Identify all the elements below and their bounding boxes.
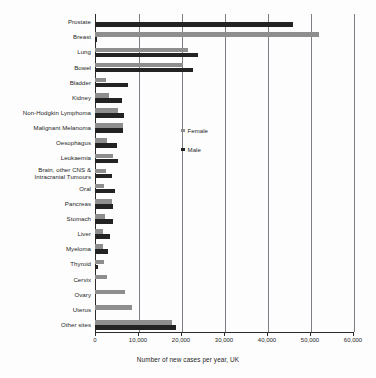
tick-mark-10000 xyxy=(138,332,139,336)
bar-male xyxy=(95,325,176,330)
bar-male xyxy=(95,143,117,148)
bar-male xyxy=(95,174,112,179)
category-label: Oesophagus xyxy=(0,139,91,146)
bar-row: Pancreas xyxy=(0,196,376,212)
cancer-incidence-bar-chart: ProstateBreastLungBowelBladderKidneyNon-… xyxy=(0,0,376,378)
x-tick-label: 0 xyxy=(93,337,96,343)
bar-female xyxy=(95,244,103,249)
bar-female xyxy=(95,275,107,280)
bar-male xyxy=(95,68,193,73)
category-label: Non-Hodgkin Lymphoma xyxy=(0,109,91,116)
legend-item-female: Female xyxy=(181,127,208,134)
bar-row: Liver xyxy=(0,226,376,242)
bar-row: Stomach xyxy=(0,211,376,227)
category-label: Myeloma xyxy=(0,245,91,252)
category-label: Thyroid xyxy=(0,260,91,267)
bar-female xyxy=(95,320,172,325)
bar-male xyxy=(95,98,122,103)
category-label: Stomach xyxy=(0,215,91,222)
tick-mark-30000 xyxy=(224,332,225,336)
category-label: Brain, other CNS & Intracranial Tumours xyxy=(0,167,91,180)
bar-row: Breast xyxy=(0,29,376,45)
legend-swatch-female-icon xyxy=(181,129,185,133)
x-axis-title: Number of new cases per year, UK xyxy=(0,356,376,363)
bar-female xyxy=(95,78,106,83)
legend-item-male: Male xyxy=(181,146,208,153)
bar-female xyxy=(95,123,123,128)
bar-female xyxy=(95,260,104,265)
bar-male xyxy=(95,219,113,224)
category-label: Cervix xyxy=(0,276,91,283)
category-label: Lung xyxy=(0,48,91,55)
legend-label-male: Male xyxy=(188,146,201,153)
bar-male xyxy=(95,189,115,194)
chart-legend: Female Male xyxy=(181,127,208,165)
bar-row: Prostate xyxy=(0,14,376,30)
category-label: Oral xyxy=(0,185,91,192)
bar-female xyxy=(95,48,188,53)
bar-row: Cervix xyxy=(0,271,376,287)
category-label: Breast xyxy=(0,33,91,40)
legend-swatch-male-icon xyxy=(181,148,185,152)
category-label: Kidney xyxy=(0,94,91,101)
bar-female xyxy=(95,63,183,68)
x-tick-label: 40,000 xyxy=(258,337,276,343)
category-label: Bladder xyxy=(0,79,91,86)
tick-mark-50000 xyxy=(310,332,311,336)
bar-row: Uterus xyxy=(0,302,376,318)
bar-female xyxy=(95,169,106,174)
bar-male xyxy=(95,53,198,58)
bar-female xyxy=(95,108,118,113)
bar-row: Lung xyxy=(0,44,376,60)
category-label: Liver xyxy=(0,230,91,237)
tick-mark-0 xyxy=(95,332,96,336)
bar-male xyxy=(95,22,293,27)
bar-female xyxy=(95,32,319,37)
bar-female xyxy=(95,214,105,219)
bar-female xyxy=(95,229,103,234)
bar-row: Thyroid xyxy=(0,256,376,272)
category-label: Other sites xyxy=(0,321,91,328)
bar-row: Brain, other CNS & Intracranial Tumours xyxy=(0,165,376,181)
category-label: Prostate xyxy=(0,18,91,25)
bar-female xyxy=(95,184,104,189)
bar-female xyxy=(95,290,125,295)
x-tick-label: 10,000 xyxy=(129,337,147,343)
bar-female xyxy=(95,199,112,204)
bar-male xyxy=(95,83,128,88)
bar-female xyxy=(95,93,109,98)
category-label: Leukaemia xyxy=(0,154,91,161)
category-label: Ovary xyxy=(0,291,91,298)
bar-male xyxy=(95,37,97,42)
bar-row: Non-Hodgkin Lymphoma xyxy=(0,105,376,121)
bar-row: Oral xyxy=(0,181,376,197)
bar-male xyxy=(95,234,110,239)
bar-female xyxy=(95,138,107,143)
legend-label-female: Female xyxy=(188,127,208,134)
bar-male xyxy=(95,113,124,118)
category-label: Uterus xyxy=(0,306,91,313)
bar-male xyxy=(95,128,123,133)
bar-male xyxy=(95,249,108,254)
bar-row: Myeloma xyxy=(0,241,376,257)
x-tick-label: 50,000 xyxy=(301,337,319,343)
category-label: Malignant Melanoma xyxy=(0,124,91,131)
category-label: Bowel xyxy=(0,64,91,71)
bar-male xyxy=(95,265,98,270)
bar-male xyxy=(95,204,113,209)
tick-mark-60000 xyxy=(353,332,354,336)
bar-row: Bowel xyxy=(0,59,376,75)
bar-male xyxy=(95,159,118,164)
bar-row: Bladder xyxy=(0,75,376,91)
x-tick-label: 30,000 xyxy=(215,337,233,343)
bar-row: Ovary xyxy=(0,287,376,303)
bar-row: Kidney xyxy=(0,90,376,106)
x-tick-label: 20,000 xyxy=(172,337,190,343)
bar-female xyxy=(95,305,132,310)
tick-mark-40000 xyxy=(267,332,268,336)
category-label: Pancreas xyxy=(0,200,91,207)
bar-row: Other sites xyxy=(0,317,376,333)
x-tick-label: 60,000 xyxy=(344,337,362,343)
tick-mark-20000 xyxy=(181,332,182,336)
bar-female xyxy=(95,154,113,159)
